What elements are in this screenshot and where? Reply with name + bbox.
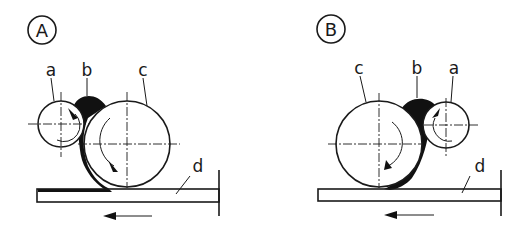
panel-a-feed-arrow-icon: [103, 212, 116, 220]
panel-b-leader-a: [451, 76, 453, 102]
panel-a-label-a: a: [46, 60, 56, 80]
panel-a-label-d: d: [193, 156, 204, 176]
panel-a-leader-c: [143, 78, 147, 106]
panel-a-leader-a: [51, 78, 54, 101]
panel-a-leader-d: [176, 176, 190, 194]
panel-b-feed-arrow-icon: [384, 211, 397, 219]
panel-b-label-d: d: [475, 156, 486, 176]
panel-b-label-c: c: [354, 58, 363, 78]
panel-a-label-c: c: [138, 60, 147, 80]
panel-b-leader-c: [360, 76, 366, 102]
panel-b: B c b a d: [317, 15, 501, 219]
panel-a-badge: A: [36, 20, 49, 41]
panel-b-plate-d: [318, 189, 501, 201]
panel-b-badge: B: [325, 19, 337, 40]
panel-b-label-a: a: [449, 58, 459, 78]
panel-a: A a b c d: [28, 16, 219, 220]
roller-coating-diagram: A a b c d B: [0, 0, 524, 233]
panel-a-label-b: b: [82, 60, 93, 80]
panel-b-leader-d: [462, 176, 470, 193]
panel-b-label-b: b: [412, 58, 423, 78]
